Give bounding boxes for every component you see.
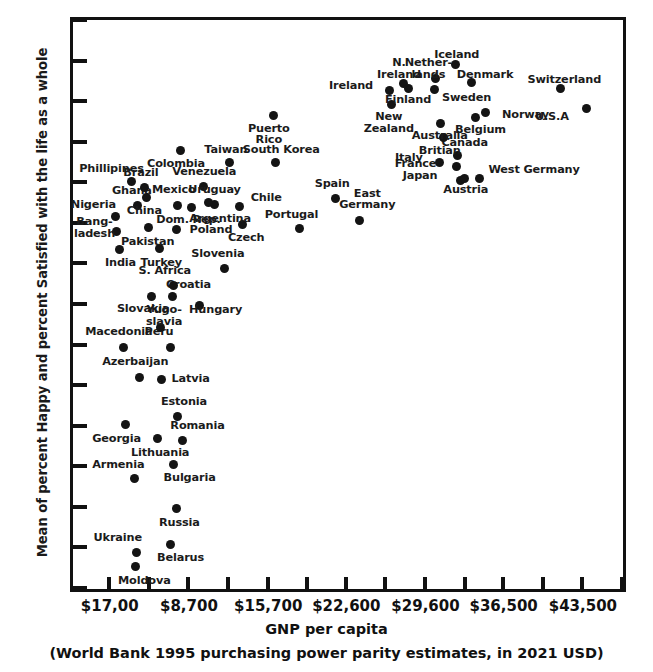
data-point-label: Colombia <box>147 158 205 170</box>
data-point <box>169 460 178 469</box>
x-axis-tick <box>501 577 505 590</box>
data-point <box>430 85 439 94</box>
data-point-label: Latvia <box>171 373 209 385</box>
x-axis-tick <box>423 577 427 590</box>
data-point <box>157 375 166 384</box>
x-axis-tick <box>620 577 624 590</box>
y-axis-tick <box>72 343 87 347</box>
data-point <box>225 158 234 167</box>
x-axis-subtitle: (World Bank 1995 purchasing power parity… <box>0 645 653 661</box>
y-axis-tick <box>72 586 87 590</box>
data-point <box>271 158 280 167</box>
data-point <box>142 193 151 202</box>
x-axis-tick <box>383 577 387 590</box>
data-point <box>471 113 480 122</box>
data-point-label: Spain <box>315 178 350 190</box>
y-axis-tick <box>72 383 87 387</box>
data-point <box>176 146 185 155</box>
y-axis-tick <box>72 59 87 63</box>
x-axis-tick-label: $43,500 <box>528 597 638 615</box>
x-axis-title: GNP per capita <box>0 621 653 637</box>
data-point-label: Phillipines <box>79 163 144 175</box>
data-point-label: Nigeria <box>71 199 116 211</box>
data-point <box>220 264 229 273</box>
data-point-label: Britian <box>419 145 461 157</box>
data-point-label: Ireland <box>329 80 373 92</box>
data-point-label: Georgia <box>92 433 141 445</box>
data-point-label: Czech <box>228 232 265 244</box>
y-axis-tick <box>72 302 87 306</box>
data-point-label: Puerto Rico <box>248 123 290 146</box>
data-point <box>166 343 175 352</box>
data-point-label: Chile <box>251 192 282 204</box>
data-point-label: Portugal <box>265 209 318 221</box>
data-point-label: Hungary <box>189 304 242 316</box>
data-point <box>172 225 181 234</box>
data-point <box>295 224 304 233</box>
x-axis-tick <box>541 577 545 590</box>
x-axis-tick <box>344 577 348 590</box>
data-point-label: U.S.A <box>535 111 569 123</box>
y-axis-tick <box>72 18 87 22</box>
data-point-label: Belarus <box>157 552 204 564</box>
data-point <box>131 562 140 571</box>
data-point-label: Bulgaria <box>164 472 216 484</box>
data-point <box>235 202 244 211</box>
y-axis-tick <box>72 464 87 468</box>
x-axis-tick <box>107 577 111 590</box>
data-point-label: Russia <box>159 517 200 529</box>
data-point-label: Argentina <box>189 213 251 225</box>
data-point-label: West Germany <box>488 164 579 176</box>
data-point <box>187 203 196 212</box>
y-axis-tick <box>72 505 87 509</box>
data-point-label: Sweden <box>442 92 491 104</box>
data-point-label: East Germany <box>339 188 395 211</box>
data-point <box>173 201 182 210</box>
y-axis-tick <box>72 180 87 184</box>
data-point-label: Denmark <box>457 69 514 81</box>
data-point-label: Lithuania <box>131 447 189 459</box>
data-point <box>452 162 461 171</box>
x-axis-tick <box>226 577 230 590</box>
y-axis-tick <box>72 545 87 549</box>
data-point <box>269 111 278 120</box>
data-point-label: Estonia <box>161 396 207 408</box>
data-point-label: Bang- ladesh <box>74 216 115 239</box>
data-point-label: Slovakia <box>117 303 170 315</box>
data-point <box>121 420 130 429</box>
y-axis-title: Mean of percent Happy and percent Satisf… <box>35 13 50 593</box>
data-point-label: New Zealand <box>364 111 414 134</box>
data-point <box>436 119 445 128</box>
x-axis-tick <box>186 577 190 590</box>
data-point <box>111 212 120 221</box>
data-point <box>135 373 144 382</box>
data-point-label: Poland <box>190 224 233 236</box>
data-point <box>178 436 187 445</box>
x-axis-tick <box>580 577 584 590</box>
data-point <box>147 292 156 301</box>
data-point <box>119 343 128 352</box>
data-point-label: Japan <box>403 170 438 182</box>
data-point <box>130 474 139 483</box>
data-point <box>460 174 469 183</box>
data-point-label: Ukraine <box>93 532 141 544</box>
y-axis-tick <box>72 424 87 428</box>
data-point-label: Slovenia <box>191 248 244 260</box>
data-point <box>166 540 175 549</box>
data-point <box>173 412 182 421</box>
data-point-label: India <box>105 257 136 269</box>
data-point <box>168 292 177 301</box>
y-axis-tick <box>72 140 87 144</box>
data-point <box>582 104 591 113</box>
x-axis-tick <box>305 577 309 590</box>
plot-inner: 3035404550556065707580859095100MoldovaUk… <box>73 20 623 589</box>
data-point-label: Finland <box>385 94 431 106</box>
data-point-label: Taiwan <box>204 144 247 156</box>
data-point <box>140 183 149 192</box>
data-point-label: Moldova <box>118 575 171 587</box>
data-point <box>481 108 490 117</box>
plot-area: 3035404550556065707580859095100MoldovaUk… <box>70 17 626 592</box>
data-point-label: France <box>395 158 437 170</box>
data-point-label: Turkey <box>141 257 182 269</box>
y-axis-tick <box>72 99 87 103</box>
